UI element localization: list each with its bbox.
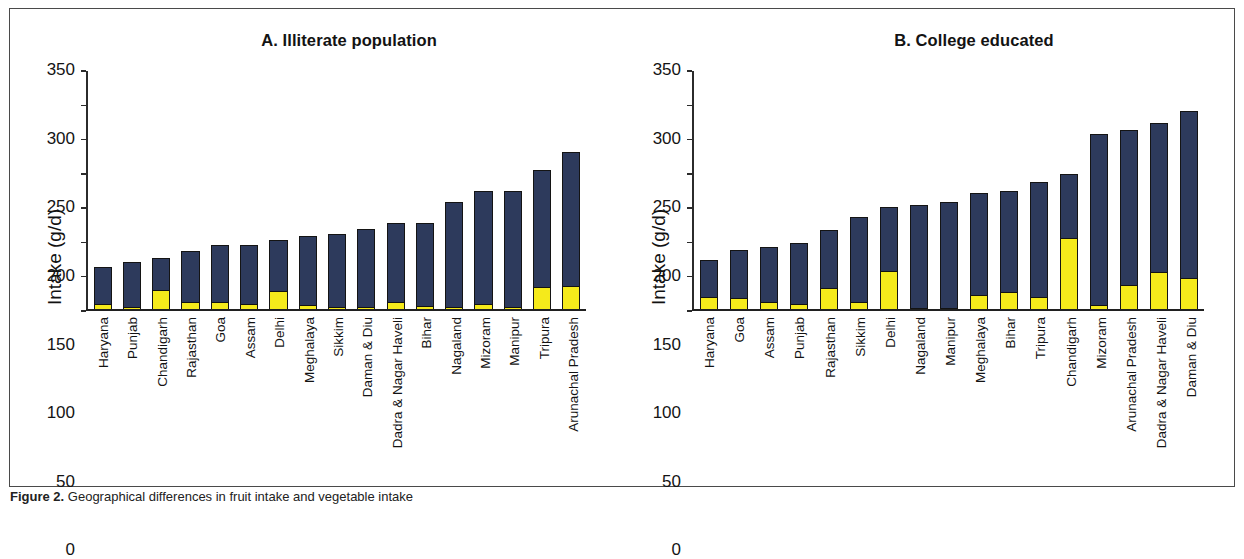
bar-column [352,71,381,309]
stacked-bar [474,191,492,309]
y-axis-tick-label: 350 [653,60,681,80]
category-label: Mizoram [1093,317,1108,369]
category-label: Manipur [507,317,522,366]
stacked-bar [504,191,522,308]
category-label-cell: Haryana [88,315,117,475]
bar-segment-fruit [701,297,718,308]
category-label-cell: Mizoram [1086,315,1116,475]
category-label: Tripura [536,317,551,359]
y-axis-tick: 150 [81,207,86,209]
stacked-bar [940,202,959,308]
bar-segment-fruit [1001,292,1018,308]
stacked-bar [387,223,405,308]
stacked-bar [1150,123,1169,308]
bar-segment-fruit [821,288,838,308]
bar-column [1114,71,1144,309]
category-label: Rajasthan [822,317,837,378]
category-label-cell: Daman & Diu [353,315,382,475]
y-axis-tick: 100 [81,242,86,244]
bar-column [381,71,410,309]
y-axis-tick-label: 0 [66,540,75,559]
bar-segment-fruit [124,307,140,308]
stacked-bar [1180,111,1199,308]
category-label: Manipur [943,317,958,366]
bar-segment-vegetable [1031,183,1048,297]
category-label-cell: Nagaland [441,315,470,475]
bar-segment-fruit [95,304,111,308]
y-axis-tick: 0 [687,310,692,312]
y-axis-tick-label: 200 [653,266,681,286]
y-axis-tick: 100 [687,242,692,244]
y-axis-tick-label: 0 [672,540,681,559]
y-axis-tick-label: 200 [47,266,75,286]
bar-segment-vegetable [1001,192,1018,292]
category-label-cell: Arunachal Pradesh [559,315,588,475]
category-label-cell: Goa [724,315,754,475]
y-axis-tick: 150 [687,207,692,209]
bar-column [904,71,934,309]
bar-segment-fruit [881,271,898,308]
bar-segment-vegetable [505,192,521,307]
bar-segment-vegetable [446,203,462,307]
category-label: Chandigarh [1063,317,1078,387]
y-axis-tick: 50 [81,276,86,278]
stacked-bar [269,240,287,309]
bar-column [724,71,754,309]
panel-a-plot-area: 050100150200250300350 [86,71,586,311]
category-label: Nagaland [448,317,463,375]
stacked-bar [445,202,463,308]
bar-column [117,71,146,309]
bar-segment-fruit [941,308,958,309]
y-axis-tick-label: 350 [47,60,75,80]
y-axis-tick: 300 [81,105,86,107]
category-label: Assam [242,317,257,358]
category-label-cell: Goa [206,315,235,475]
stacked-bar [123,262,141,309]
category-label: Goa [213,317,228,343]
stacked-bar [299,236,317,309]
category-label: Delhi [272,317,287,348]
category-label: Sikkim [330,317,345,357]
bar-column [1054,71,1084,309]
figure-caption-label: Figure 2. [10,489,64,504]
stacked-bar [533,170,551,309]
bar-segment-vegetable [941,203,958,307]
bar-segment-fruit [241,304,257,309]
bar-segment-fruit [329,307,345,308]
category-label-cell: Dadra & Nagar Haveli [382,315,411,475]
category-label-cell: Manipur [935,315,965,475]
bar-segment-fruit [212,302,228,309]
y-axis-tick-label: 100 [653,403,681,423]
bar-column [1024,71,1054,309]
bar-segment-fruit [1061,238,1078,309]
bar-segment-vegetable [153,259,169,291]
bar-column [874,71,904,309]
bar-segment-fruit [1151,272,1168,309]
bar-segment-fruit [505,307,521,308]
bar-column [440,71,469,309]
category-label: Meghalaya [973,317,988,383]
category-label-cell: Delhi [264,315,293,475]
bar-segment-vegetable [417,224,433,306]
stacked-bar [880,207,899,308]
y-axis-tick-label: 250 [47,197,75,217]
category-label-cell: Nagaland [905,315,935,475]
category-label-cell: Chandigarh [147,315,176,475]
stacked-bar [850,217,869,308]
category-label: Haryana [702,317,717,368]
panel-b-title: B. College educated [624,31,1244,50]
category-label-cell: Punjab [784,315,814,475]
bar-column [814,71,844,309]
bar-column [88,71,117,309]
bar-segment-vegetable [95,268,111,304]
bar-column [1084,71,1114,309]
stacked-bar [152,258,170,309]
bar-segment-fruit [791,304,808,308]
panel-b-plot-area: 050100150200250300350 [692,71,1204,311]
bar-segment-fruit [182,302,198,308]
stacked-bar [760,247,779,308]
category-label-cell: Tripura [1025,315,1055,475]
bar-segment-vegetable [821,231,838,288]
stacked-bar [1090,134,1109,308]
bar-column [176,71,205,309]
